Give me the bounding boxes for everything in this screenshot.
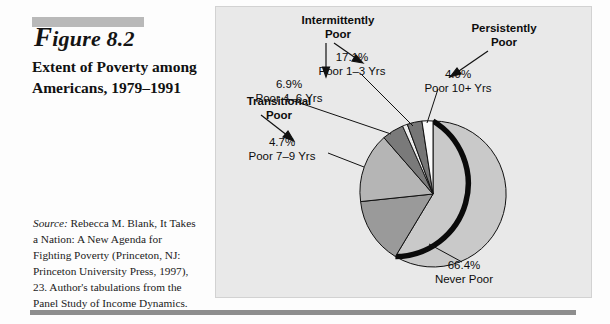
leader-line-poor-1-3 xyxy=(362,75,413,126)
slice-callout-poor-4-6: 6.9% Poor 4–6 Yrs xyxy=(247,77,331,105)
source-body: Rebecca M. Blank, It Takes a Nation: A N… xyxy=(33,217,196,309)
slice-callout-poor-1-3: 17.1% Poor 1–3 Yrs xyxy=(312,50,392,78)
figure-number-initial: F xyxy=(34,22,52,52)
chart-panel: Intermittently Poor Persistently Poor Tr… xyxy=(215,6,592,298)
figure-title: Extent of Poverty among Americans, 1979–… xyxy=(32,57,207,98)
figure-number: Figure 8.2 xyxy=(34,22,135,53)
source-lead: Source: xyxy=(33,217,68,229)
slice-callout-poor-10-plus: 4.9% Poor 10+ Yrs xyxy=(412,67,504,95)
chart-area: Intermittently Poor Persistently Poor Tr… xyxy=(216,7,591,297)
page-root: Figure 8.2 Extent of Poverty among Ameri… xyxy=(0,0,610,324)
figure-source: Source: Rebecca M. Blank, It Takes a Nat… xyxy=(33,215,203,311)
slice-callout-poor-7-9: 4.7% Poor 7–9 Yrs xyxy=(236,135,328,163)
slice-callout-never-poor: 66.4% Never Poor xyxy=(416,258,512,286)
annotation-persistently-poor: Persistently Poor xyxy=(446,21,562,49)
pie-slices xyxy=(360,121,506,267)
annotation-intermittently-poor: Intermittently Poor xyxy=(280,13,396,41)
leader-line-poor-7-9 xyxy=(328,153,364,167)
page-footer-rule xyxy=(30,310,576,315)
figure-number-rest: igure 8.2 xyxy=(52,26,134,51)
